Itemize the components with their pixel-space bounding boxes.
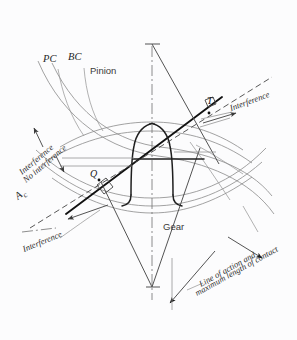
interference-label-right: Interference: [227, 89, 271, 113]
tangent-dashdot-tail: [22, 228, 56, 232]
interference-arrow-left-upper: [34, 128, 43, 147]
gear-interference-figure: PC BC Pinion Gear T Q A c Interference I…: [0, 0, 297, 340]
bc-leader-left: [84, 68, 103, 131]
pc-bc-leader-curves-right: [190, 142, 258, 232]
point-t-dot: [208, 112, 211, 115]
interference-label-left-lower: Interference: [20, 229, 63, 254]
pinion-label: Pinion: [90, 65, 116, 76]
point-q-label: Q: [90, 168, 98, 179]
pc-leader-left: [58, 69, 84, 136]
bc-leader-right-tail: [243, 206, 258, 232]
line-of-action-label-line2: maximum length of contact: [193, 243, 280, 297]
diagram-canvas: PC BC Pinion Gear T Q A c Interference I…: [0, 0, 297, 340]
gear-label: Gear: [163, 221, 184, 232]
point-q-dot: [98, 179, 101, 182]
pc-label-top: PC: [42, 53, 57, 64]
radius-symbol-group: A c: [12, 186, 30, 204]
bc-label-top: BC: [68, 51, 82, 62]
bc-leader-right: [190, 142, 230, 200]
gear-center-to-t-line: [152, 148, 200, 287]
pc-bc-leader-curves-left: [58, 68, 103, 136]
